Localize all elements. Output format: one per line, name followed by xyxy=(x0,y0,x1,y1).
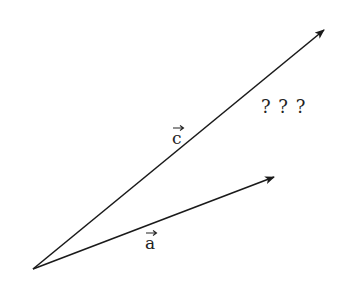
vector-a-letter: a xyxy=(145,233,155,253)
unknown-question-marks: ? ? ? xyxy=(261,96,306,117)
vector-c-label: c xyxy=(172,126,184,149)
vector-a-label: a xyxy=(145,231,157,254)
vector-c-arrow xyxy=(33,30,324,269)
vector-diagram: c a ? ? ? xyxy=(0,0,359,296)
vector-a-arrow xyxy=(33,177,274,269)
vector-c-letter: c xyxy=(172,128,182,148)
